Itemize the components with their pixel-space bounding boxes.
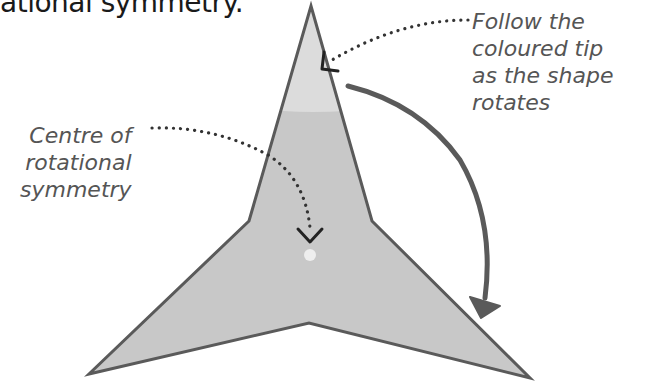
centre-label-line-3: symmetry (20, 176, 132, 203)
tip-label-line-2: coloured tip (472, 35, 613, 62)
centre-point (304, 249, 316, 261)
tip-leader-dots (332, 20, 468, 60)
tip-label-line-4: rotates (472, 89, 613, 116)
tip-label: Follow the coloured tip as the shape rot… (472, 8, 613, 116)
centre-label-line-2: rotational (20, 149, 132, 176)
tip-label-line-3: as the shape (472, 62, 613, 89)
centre-label: Centre of rotational symmetry (20, 122, 132, 203)
centre-label-line-1: Centre of (20, 122, 132, 149)
tip-label-line-1: Follow the (472, 8, 613, 35)
